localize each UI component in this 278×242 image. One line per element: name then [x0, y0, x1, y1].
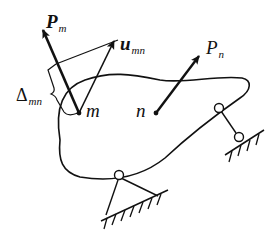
label-umn-subscript: mn — [132, 44, 145, 56]
label-displacement-umn: umn — [120, 34, 145, 56]
label-pm-symbol: P — [46, 11, 58, 32]
label-delta-symbol: Δ — [16, 85, 28, 105]
label-point-n: n — [136, 101, 146, 120]
label-pn-subscript: n — [219, 48, 225, 60]
point-n-dot — [154, 111, 159, 116]
elastic-body-outline — [58, 74, 249, 179]
label-delta-subscript: mn — [29, 95, 42, 107]
label-force-pn: Pn — [206, 38, 224, 60]
label-pn-symbol: P — [206, 37, 218, 58]
label-umn-symbol: u — [120, 33, 131, 54]
diagram-canvas: Pm umn Pn Δmn m n — [0, 0, 278, 242]
label-point-m: m — [86, 101, 100, 120]
point-m-dot — [77, 111, 82, 116]
delta-brace-icon — [48, 64, 78, 115]
label-pm-subscript: m — [59, 22, 67, 34]
right-roller-support-icon — [215, 104, 265, 163]
force-arrow-pn — [156, 56, 199, 113]
label-force-pm: Pm — [46, 12, 67, 34]
label-delta-mn: Δmn — [16, 86, 42, 107]
